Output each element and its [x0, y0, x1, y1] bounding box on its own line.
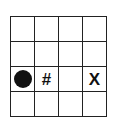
puzzle-grid: # X — [10, 16, 107, 117]
cell-r0-c2 — [59, 17, 83, 42]
cell-r2-c3: X — [83, 67, 107, 92]
cell-r3-c2 — [59, 92, 83, 117]
cell-r3-c0 — [11, 92, 35, 117]
cell-r1-c1 — [35, 42, 59, 67]
cell-r2-c0 — [11, 67, 35, 92]
cell-r3-c1 — [35, 92, 59, 117]
filled-circle-icon — [14, 70, 32, 88]
cell-r2-c1: # — [35, 67, 59, 92]
cell-r1-c3 — [83, 42, 107, 67]
cell-r0-c1 — [35, 17, 59, 42]
hash-symbol: # — [42, 71, 51, 88]
cell-r2-c2 — [59, 67, 83, 92]
cell-r3-c3 — [83, 92, 107, 117]
cell-r1-c2 — [59, 42, 83, 67]
x-symbol: X — [89, 71, 100, 88]
cell-r0-c0 — [11, 17, 35, 42]
cell-r1-c0 — [11, 42, 35, 67]
cell-r0-c3 — [83, 17, 107, 42]
